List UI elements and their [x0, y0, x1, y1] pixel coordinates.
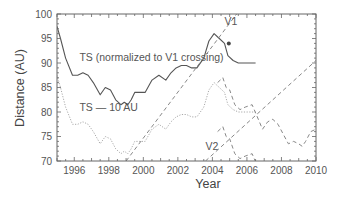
x-tick-label: 2004 — [201, 165, 224, 176]
x-tick-label: 2006 — [236, 165, 259, 176]
x-axis-ticks: 19961998200020022004200620082010 — [57, 14, 328, 176]
y-tick-label: 95 — [41, 33, 53, 44]
x-tick-label: 2010 — [305, 165, 328, 176]
x-axis-title: Year — [195, 177, 220, 191]
series-v2 — [206, 61, 317, 162]
annotation-label: TS (normalized to V1 crossing) — [79, 51, 223, 63]
y-tick-label: 70 — [41, 156, 53, 167]
y-tick-label: 100 — [35, 9, 52, 20]
v1-crossing-marker — [227, 41, 231, 45]
x-tick-label: 2002 — [167, 165, 190, 176]
x-tick-label: 2000 — [132, 165, 155, 176]
x-tick-label: 1998 — [98, 165, 121, 176]
annotation-label: V1 — [224, 15, 237, 27]
y-tick-label: 75 — [41, 131, 53, 142]
annotations: TS (normalized to V1 crossing)TS — 10 AU… — [79, 15, 237, 152]
y-tick-label: 85 — [41, 82, 53, 93]
series-ts-normalized-to-v1-crossing — [57, 26, 256, 104]
y-axis-ticks: 707580859095100 — [35, 9, 316, 167]
y-axis-title: Distance (AU) — [13, 49, 27, 127]
y-tick-label: 90 — [41, 58, 53, 69]
annotation-label: TS — 10 AU — [79, 101, 137, 113]
series-v1 — [126, 14, 237, 161]
y-tick-label: 80 — [41, 107, 53, 118]
chart: 19961998200020022004200620082010 7075808… — [0, 0, 340, 197]
annotation-label: V2 — [205, 140, 218, 152]
x-tick-label: 1996 — [63, 165, 86, 176]
x-tick-label: 2008 — [270, 165, 293, 176]
